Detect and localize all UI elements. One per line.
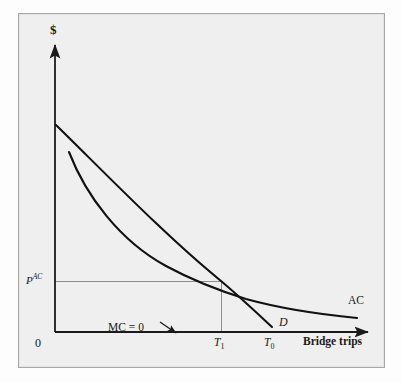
t1-label: T1 bbox=[214, 337, 224, 351]
ac-curve-label: AC bbox=[348, 295, 364, 307]
origin-label: 0 bbox=[35, 337, 41, 349]
price-ac-superscript: AC bbox=[33, 272, 43, 281]
x-axis-title: Bridge trips bbox=[303, 336, 362, 348]
plot-canvas bbox=[0, 0, 402, 382]
axes bbox=[55, 45, 368, 332]
d-curve-label: D bbox=[279, 316, 288, 328]
t0-label: T0 bbox=[264, 337, 274, 351]
y-axis-title: $ bbox=[50, 23, 57, 36]
figure-page: $ Bridge trips 0 PAC T1 T0 MC = 0 AC D bbox=[0, 0, 402, 382]
price-ac-label: PAC bbox=[26, 273, 42, 286]
t0-subscript: 0 bbox=[270, 342, 274, 351]
mc-zero-label: MC = 0 bbox=[108, 322, 144, 334]
t1-subscript: 1 bbox=[220, 342, 224, 351]
average-cost-curve bbox=[69, 152, 357, 318]
price-ac-base: P bbox=[26, 274, 33, 286]
